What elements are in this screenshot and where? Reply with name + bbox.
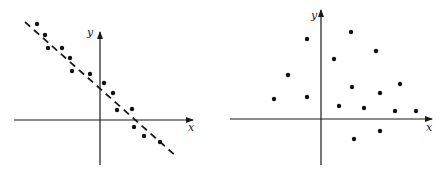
- data-point: [374, 49, 378, 53]
- data-point: [43, 33, 47, 37]
- data-point: [332, 57, 336, 61]
- right-x-axis-label: x: [426, 121, 433, 134]
- data-point: [393, 109, 397, 113]
- data-point: [111, 91, 115, 95]
- data-point: [35, 22, 39, 26]
- scatter-plots: x y x y: [0, 0, 445, 172]
- right-y-axis-label: y: [310, 9, 318, 22]
- data-point: [130, 107, 134, 111]
- data-point: [349, 30, 353, 34]
- data-point: [115, 108, 119, 112]
- data-point: [88, 72, 92, 76]
- data-point: [46, 46, 50, 50]
- data-point: [305, 95, 309, 99]
- data-point: [68, 56, 72, 60]
- data-point: [337, 104, 341, 108]
- data-point: [398, 82, 402, 86]
- left-y-axis-label: y: [86, 26, 94, 39]
- data-point: [378, 91, 382, 95]
- data-point: [286, 73, 290, 77]
- left-scatter-plot: x y: [14, 22, 195, 165]
- data-point: [272, 97, 276, 101]
- left-trend-line: [25, 22, 177, 157]
- data-point: [70, 69, 74, 73]
- data-point: [102, 81, 106, 85]
- data-point: [142, 134, 146, 138]
- data-point: [132, 125, 136, 129]
- data-point: [414, 109, 418, 113]
- right-data-points: [272, 30, 418, 141]
- data-point: [378, 129, 382, 133]
- data-point: [158, 140, 162, 144]
- data-point: [362, 106, 366, 110]
- data-point: [60, 46, 64, 50]
- data-point: [350, 85, 354, 89]
- left-x-axis-label: x: [188, 121, 195, 134]
- data-point: [305, 37, 309, 41]
- right-scatter-plot: x y: [230, 9, 433, 165]
- data-point: [352, 137, 356, 141]
